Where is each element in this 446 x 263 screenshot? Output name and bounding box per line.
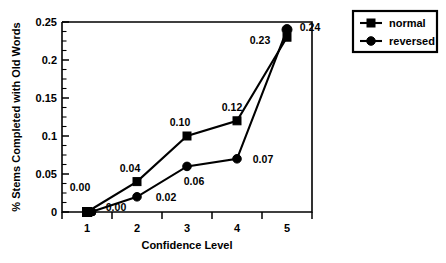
data-label-reversed-1: 0.00 bbox=[106, 201, 127, 213]
x-tick-label-1: 1 bbox=[84, 222, 90, 234]
y-tick-label-025: 0.25 bbox=[36, 16, 57, 28]
x-tick-label-5: 5 bbox=[284, 222, 290, 234]
data-label-reversed-5: 0.24 bbox=[300, 21, 321, 33]
y-tick-label-0: 0 bbox=[51, 206, 57, 218]
y-tick-label-02: 0.2 bbox=[42, 54, 57, 66]
data-label-normal-5: 0.23 bbox=[250, 34, 271, 46]
x-tick-label-3: 3 bbox=[184, 222, 190, 234]
data-label-normal-2: 0.04 bbox=[120, 162, 141, 174]
chart-figure: 0 0.05 0.1 0.15 0.2 0.25 1 2 3 4 5 Confi… bbox=[0, 0, 446, 263]
legend-entry-normal[interactable]: normal bbox=[360, 17, 426, 29]
data-label-reversed-4: 0.07 bbox=[253, 153, 274, 165]
y-axis-title: % Stems Completed with Old Words bbox=[10, 22, 22, 211]
legend-entry-reversed[interactable]: reversed bbox=[360, 35, 435, 47]
y-tick-label-005: 0.05 bbox=[36, 168, 57, 180]
x-axis-title: Confidence Level bbox=[141, 239, 232, 251]
line-chart-svg: 0 0.05 0.1 0.15 0.2 0.25 1 2 3 4 5 Confi… bbox=[0, 0, 446, 263]
data-label-normal-3: 0.10 bbox=[170, 116, 191, 128]
chart-legend: normal reversed bbox=[353, 11, 437, 52]
data-label-normal-4: 0.12 bbox=[222, 101, 243, 113]
y-tick-label-015: 0.15 bbox=[36, 92, 57, 104]
data-label-reversed-2: 0.02 bbox=[156, 191, 177, 203]
y-tick-label-01: 0.1 bbox=[42, 130, 57, 142]
legend-label-reversed: reversed bbox=[389, 35, 435, 47]
legend-marker-square-icon bbox=[367, 19, 375, 27]
x-tick-label-2: 2 bbox=[134, 222, 140, 234]
legend-marker-circle-icon bbox=[367, 37, 376, 46]
data-label-normal-1: 0.00 bbox=[70, 181, 91, 193]
x-tick-label-4: 4 bbox=[234, 222, 241, 234]
data-label-reversed-3: 0.06 bbox=[184, 175, 205, 187]
legend-label-normal: normal bbox=[389, 17, 426, 29]
x-axis-ticks bbox=[62, 212, 312, 219]
